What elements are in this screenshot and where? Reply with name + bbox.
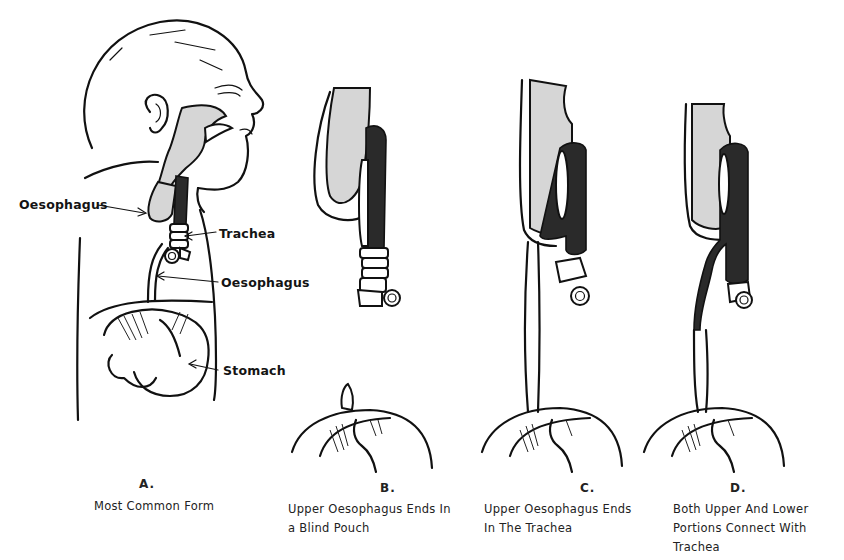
tracheo-oesophageal-fistula-figure: Oesophagus Trachea Oesophagus Stomach A.… xyxy=(0,0,844,560)
trachea-rings-d xyxy=(728,282,752,308)
upper-oesophagus-pouch xyxy=(148,182,176,221)
caption-b-line: Upper Oesophagus Ends In xyxy=(288,500,451,519)
stomach xyxy=(104,310,209,396)
label-trachea: Trachea xyxy=(219,226,275,241)
caption-d: Both Upper And Lower Portions Connect Wi… xyxy=(673,500,808,557)
infant-body-outline xyxy=(77,238,80,420)
caption-d-line: Both Upper And Lower xyxy=(673,500,808,519)
stomach-b xyxy=(292,410,432,468)
label-leader-lines xyxy=(98,205,218,370)
caption-a-line: Most Common Form xyxy=(94,497,214,516)
caption-c-line: Upper Oesophagus Ends xyxy=(484,500,632,519)
panel-letter-c: C. xyxy=(580,481,595,495)
caption-b-line: a Blind Pouch xyxy=(288,519,451,538)
trachea-rings xyxy=(165,224,190,263)
fistula-opening-d xyxy=(719,154,729,214)
label-stomach: Stomach xyxy=(223,363,286,378)
caption-a: Most Common Form xyxy=(94,497,214,516)
lower-oesophagus-d xyxy=(694,330,698,412)
panel-b-drawing xyxy=(292,88,432,472)
fistula-opening-c xyxy=(556,151,568,219)
panel-c-drawing xyxy=(482,80,622,472)
panel-letter-d: D. xyxy=(730,481,747,495)
trachea-upper xyxy=(174,176,188,224)
panel-d-drawing xyxy=(644,104,784,472)
illustration-canvas xyxy=(0,0,844,560)
caption-d-line: Trachea xyxy=(673,538,808,557)
infant-ear xyxy=(146,95,168,133)
trachea-rings-b xyxy=(358,248,400,306)
caption-c: Upper Oesophagus Ends In The Trachea xyxy=(484,500,632,538)
caption-d-line: Portions Connect With xyxy=(673,519,808,538)
panel-letter-a: A. xyxy=(139,477,155,491)
label-oesophagus-lower: Oesophagus xyxy=(221,275,310,290)
panel-letter-b: B. xyxy=(380,481,396,495)
caption-c-line: In The Trachea xyxy=(484,519,632,538)
panel-a-drawing xyxy=(77,21,263,420)
lower-oesophagus-stub-b xyxy=(341,384,352,410)
trachea-rings-c xyxy=(556,258,589,305)
lower-oesophagus-c xyxy=(525,242,528,412)
label-oesophagus-upper: Oesophagus xyxy=(19,197,108,212)
caption-b: Upper Oesophagus Ends In a Blind Pouch xyxy=(288,500,451,538)
